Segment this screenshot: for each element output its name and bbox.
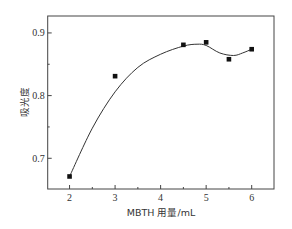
fit-curve-path — [70, 44, 252, 176]
plot-frame — [48, 16, 274, 189]
square-marker-icon — [249, 47, 254, 52]
x-axis-label: MBTH 用量/mL — [127, 207, 196, 218]
x-tick-label: 3 — [113, 192, 118, 203]
data-markers — [67, 40, 254, 179]
square-marker-icon — [113, 74, 118, 79]
square-marker-icon — [181, 43, 186, 48]
plot-border — [48, 16, 274, 189]
x-tick-label: 4 — [158, 192, 163, 203]
x-tick-label: 6 — [249, 192, 254, 203]
x-axis-ticks: 23456 — [67, 185, 254, 203]
y-tick-label: 0.9 — [32, 27, 45, 38]
y-tick-label: 0.8 — [32, 90, 45, 101]
square-marker-icon — [67, 174, 72, 179]
fit-curve — [70, 44, 252, 176]
absorbance-chart: 23456 0.70.80.9 MBTH 用量/mL 吸光度 — [0, 0, 292, 229]
x-tick-label: 2 — [67, 192, 72, 203]
y-axis-ticks: 0.70.80.9 — [32, 27, 52, 163]
y-axis-label: 吸光度 — [19, 87, 30, 117]
square-marker-icon — [204, 40, 209, 45]
x-tick-label: 5 — [204, 192, 209, 203]
y-tick-label: 0.7 — [32, 153, 45, 164]
square-marker-icon — [227, 57, 232, 62]
